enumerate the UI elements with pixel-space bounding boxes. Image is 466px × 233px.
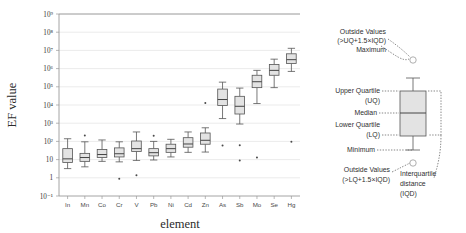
x-tick-labels: InMnCoCrVPbNiCdZnAsSbMoSeHg xyxy=(65,201,296,208)
legend-outside-values-top-label: Outside Values xyxy=(340,28,387,35)
box-rect xyxy=(63,149,73,163)
x-tick-label: Se xyxy=(270,201,278,208)
legend-maximum-label: Maximum xyxy=(356,46,386,53)
y-tick-label: 10⁸ xyxy=(43,29,53,37)
legend-outside-values-bottom-formula: (>LQ+1.5×IQD) xyxy=(342,176,390,184)
box-rect xyxy=(183,138,193,148)
legend-lower-quartile-label: Lower Quartile xyxy=(335,121,380,129)
x-tick-label: Cd xyxy=(184,201,192,208)
chart-figure: 10⁹ 10⁸ 10⁷ 10⁶ 10⁵ 10⁴ 10³ 10² 10 1 10⁻… xyxy=(0,0,466,233)
y-axis-title: EF value xyxy=(5,82,19,127)
y-tick-label: 10⁶ xyxy=(43,65,53,73)
legend-iqd-line3: (IQD) xyxy=(400,190,417,198)
x-tick-label: As xyxy=(219,201,226,208)
box-rect xyxy=(132,141,142,151)
box-plot-item xyxy=(132,132,142,176)
y-tick-label: 10⁹ xyxy=(43,11,53,19)
x-tick-label: Sb xyxy=(236,201,244,208)
boxplot-legend: Outside Values (>UQ+1.5×IQD) Maximum Upp… xyxy=(335,28,441,198)
legend-upper-quartile-label: Upper Quartile xyxy=(335,87,380,95)
box-plot-item xyxy=(97,140,107,161)
box-plot-item xyxy=(166,139,176,157)
iqd-bracket xyxy=(428,91,441,135)
x-tick-label: Co xyxy=(98,201,106,208)
outlier-point xyxy=(290,141,292,143)
legend-upper-quartile-abbr: (UQ) xyxy=(365,97,380,105)
legend-outside-values-bottom-label: Outside Values xyxy=(344,166,391,173)
y-tick-label: 10⁻¹ xyxy=(40,193,53,201)
x-tick-label: Cr xyxy=(116,201,123,208)
box-rect xyxy=(114,148,124,157)
outlier-point xyxy=(204,102,206,104)
outlier-point xyxy=(239,159,241,161)
legend-minimum-label: Minimum xyxy=(347,146,375,153)
y-tick-labels: 10⁹ 10⁸ 10⁷ 10⁶ 10⁵ 10⁴ 10³ 10² 10 1 10⁻… xyxy=(40,11,54,201)
box-rect xyxy=(287,54,297,64)
box-rect xyxy=(218,89,228,105)
gridlines xyxy=(59,14,300,178)
x-axis-title: element xyxy=(160,217,200,231)
outlier-point xyxy=(239,144,241,146)
leader-outside-upper xyxy=(388,39,410,57)
x-tick-label: V xyxy=(134,201,139,208)
box-plot-item xyxy=(235,88,245,161)
outlier-point xyxy=(153,135,155,137)
box-plot-item xyxy=(287,48,297,142)
legend-iqd-line1: Interquartile xyxy=(400,170,437,178)
outlier-point xyxy=(84,135,86,137)
outlier-point xyxy=(135,174,137,176)
plot-area: 10⁹ 10⁸ 10⁷ 10⁶ 10⁵ 10⁴ 10³ 10² 10 1 10⁻… xyxy=(40,11,300,209)
legend-median-label: Median xyxy=(354,109,377,116)
outlier-point xyxy=(256,157,258,159)
legend-outside-value-upper-icon xyxy=(410,57,416,63)
y-tick-label: 10³ xyxy=(44,120,54,128)
box-plot-item xyxy=(269,59,279,87)
x-tick-label: Hg xyxy=(287,201,295,208)
x-tick-label: Pb xyxy=(150,201,158,208)
y-tick-label: 10² xyxy=(44,138,53,146)
box-plot-item xyxy=(218,82,228,146)
box-plot-item xyxy=(183,132,193,152)
x-tick-label: Zn xyxy=(202,201,210,208)
y-tick-label: 10⁴ xyxy=(43,102,53,110)
box-rect xyxy=(201,133,211,144)
legend-outside-values-top-formula: (>UQ+1.5×IQD) xyxy=(337,37,386,45)
box-rect xyxy=(235,96,245,114)
legend-iqd-line2: distance xyxy=(400,180,426,187)
box-plot-item xyxy=(63,139,73,169)
x-tick-label: Mo xyxy=(253,201,262,208)
box-rect xyxy=(269,64,279,75)
box-plot-item xyxy=(114,142,124,180)
box-plot-item xyxy=(252,70,262,158)
y-tick-label: 1 xyxy=(49,174,53,182)
legend-lower-quartile-abbr: (LQ) xyxy=(366,131,380,139)
y-tick-label: 10⁷ xyxy=(43,47,53,55)
box-rect xyxy=(97,149,107,157)
legend-outside-value-lower-icon xyxy=(410,160,416,166)
y-tick-label: 10⁵ xyxy=(43,83,53,91)
x-tick-label: In xyxy=(65,201,71,208)
box-plot-item xyxy=(80,135,90,167)
x-tick-label: Mn xyxy=(81,201,90,208)
outlier-point xyxy=(222,144,224,146)
box-plot-item xyxy=(201,102,211,152)
outlier-point xyxy=(118,178,120,180)
y-tick-label: 10 xyxy=(46,156,54,164)
x-tick-label: Ni xyxy=(168,201,174,208)
box-plot-item xyxy=(149,135,159,160)
